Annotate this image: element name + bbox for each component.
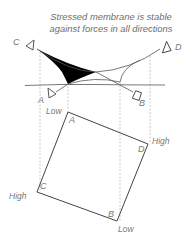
membrane-elevation xyxy=(37,49,160,92)
elevation-label-d: D xyxy=(175,42,182,52)
height-label-c: High xyxy=(9,191,27,201)
height-label-d: High xyxy=(152,136,170,146)
height-label-b: Low xyxy=(118,224,134,234)
force-arrow-c-icon xyxy=(26,40,34,50)
height-label-a: Low xyxy=(46,106,62,116)
plan-label-d: D xyxy=(138,144,145,154)
title-line-2: against forces in all directions xyxy=(50,23,173,34)
plan-label-a: A xyxy=(68,115,75,125)
force-arrow-a-icon xyxy=(48,88,56,98)
elevation-label-c: C xyxy=(13,37,20,47)
plan-label-c: C xyxy=(40,181,47,191)
membrane-shaded-region xyxy=(37,49,96,84)
tension-line-a xyxy=(56,84,68,92)
elevation-label-b: B xyxy=(139,98,145,108)
stressed-membrane-diagram: Stressed membrane is stable against forc… xyxy=(0,0,192,248)
ground-line xyxy=(25,84,165,85)
projection-guides xyxy=(40,52,150,221)
elevation-label-a: A xyxy=(37,95,44,105)
membrane-edge-cd xyxy=(37,49,160,72)
tension-line-b xyxy=(96,72,133,92)
title-line-1: Stressed membrane is stable xyxy=(50,11,171,22)
plan-label-b: B xyxy=(108,209,114,219)
force-arrow-d-icon xyxy=(160,41,171,53)
plan-square xyxy=(37,112,148,221)
membrane-edge-db xyxy=(120,60,140,82)
